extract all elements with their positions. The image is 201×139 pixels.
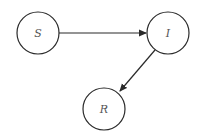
node-i-label: I: [165, 27, 171, 40]
sir-diagram: S I R: [0, 0, 201, 139]
node-s-label: S: [34, 27, 42, 40]
node-r-label: R: [99, 103, 108, 116]
node-s: S: [17, 12, 59, 54]
node-r: R: [83, 88, 125, 130]
node-i: I: [147, 12, 189, 54]
edge-i-to-r: [120, 50, 155, 91]
